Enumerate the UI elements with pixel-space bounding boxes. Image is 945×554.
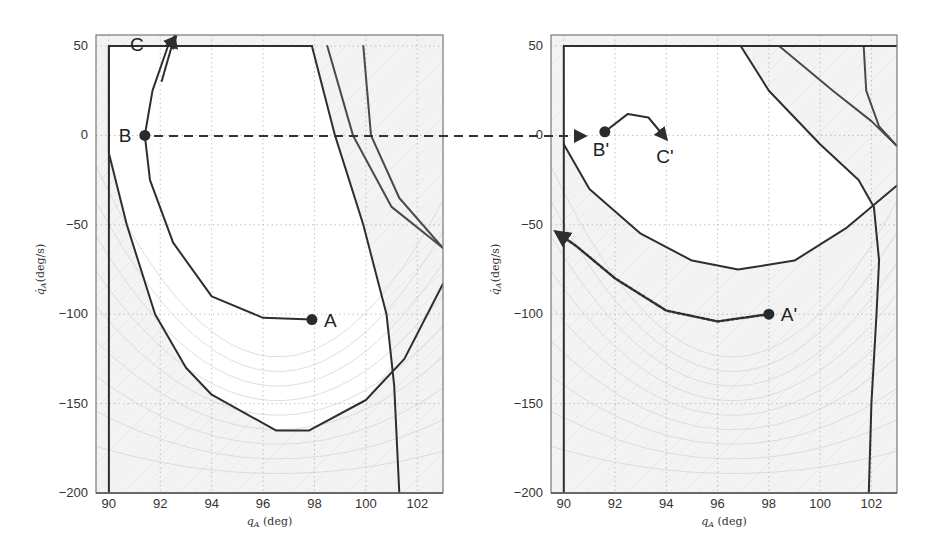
left-x-tick-label: 90 [102,496,116,511]
right-x-tick-label: 100 [809,496,831,511]
right-x-tick-label: 98 [762,496,776,511]
right-chart: 9092949698100102500−50−100−150−200qA (de… [489,35,937,529]
right-x-tick-label: 102 [861,496,883,511]
left-y-axis-label: q̇A(deg/s) [34,244,48,295]
left-point-b-marker [139,130,150,141]
left-point-b-label: B [119,125,132,146]
left-y-tick-label: −200 [59,485,88,500]
left-y-tick-label: −100 [59,306,88,321]
right-x-tick-label: 90 [557,496,571,511]
left-x-tick-label: 100 [355,496,377,511]
right-y-tick-label: −100 [514,306,543,321]
right-point-a-marker [763,309,774,320]
left-point-a-marker [306,314,317,325]
left-y-tick-label: 50 [74,38,88,53]
right-y-tick-label: −200 [514,485,543,500]
right-y-tick-label: 50 [529,38,543,53]
left-y-tick-label: 0 [81,127,88,142]
right-x-tick-label: 96 [710,496,724,511]
right-point-c-label: C' [656,146,673,167]
left-point-a-label: A [324,310,337,331]
right-point-b-label: B' [593,139,609,160]
right-x-axis-label: qA (deg) [701,515,747,529]
left-y-tick-label: −50 [66,217,88,232]
right-y-tick-label: −150 [514,396,543,411]
right-y-tick-label: −50 [521,217,543,232]
left-x-tick-label: 94 [204,496,218,511]
right-x-tick-label: 92 [608,496,622,511]
right-y-tick-label: 0 [536,127,543,142]
left-x-tick-label: 92 [153,496,167,511]
right-y-axis-label: q̇A(deg/s) [489,244,503,295]
left-x-axis-label: qA (deg) [247,515,293,529]
left-x-tick-label: 98 [307,496,321,511]
right-x-tick-label: 94 [659,496,673,511]
figure: 9092949698100102500−50−100−150−200qA (de… [0,0,945,554]
right-point-a-label: A' [781,304,797,325]
left-x-tick-label: 102 [406,496,428,511]
right-point-b-marker [599,126,610,137]
left-point-c-label: C [130,34,144,55]
left-chart: 9092949698100102500−50−100−150−200qA (de… [34,34,483,529]
left-x-tick-label: 96 [256,496,270,511]
left-y-tick-label: −150 [59,396,88,411]
